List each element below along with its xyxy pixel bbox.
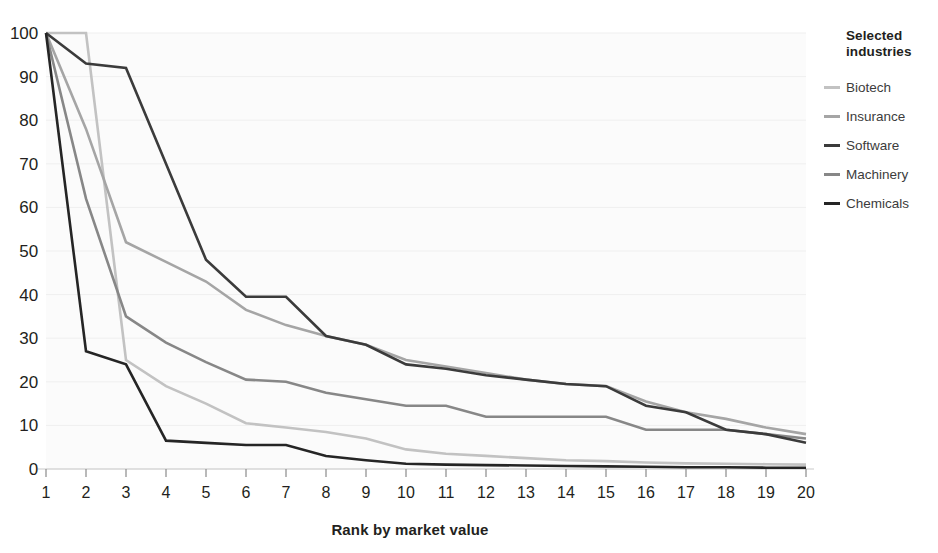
legend-item[interactable]: Chemicals — [824, 189, 938, 218]
x-axis-tick-label: 5 — [190, 485, 222, 501]
x-axis-tick-labels: 1234567891011121314151617181920 — [0, 0, 820, 553]
chart-container: 1009080706050403020100 12345678910111213… — [0, 0, 938, 553]
x-axis-tick-label: 8 — [310, 485, 342, 501]
x-axis-tick-label: 18 — [710, 485, 742, 501]
legend-item[interactable]: Insurance — [824, 102, 938, 131]
plot-area: 1009080706050403020100 12345678910111213… — [0, 0, 820, 553]
legend-item-label: Machinery — [846, 168, 908, 182]
legend-item[interactable]: Biotech — [824, 73, 938, 102]
legend-title-line1: Selected — [846, 28, 938, 44]
x-axis-tick-label: 3 — [110, 485, 142, 501]
legend-title-line2: industries — [846, 44, 938, 60]
legend-item[interactable]: Machinery — [824, 160, 938, 189]
x-axis-tick-label: 17 — [670, 485, 702, 501]
x-axis-tick-label: 1 — [30, 485, 62, 501]
x-axis-tick-label: 6 — [230, 485, 262, 501]
legend-item[interactable]: Software — [824, 131, 938, 160]
legend-item-label: Biotech — [846, 81, 891, 95]
x-axis-tick-label: 2 — [70, 485, 102, 501]
legend-color-swatch-icon — [824, 144, 840, 147]
legend-item-label: Insurance — [846, 110, 905, 124]
legend-color-swatch-icon — [824, 86, 840, 89]
x-axis-tick-label: 10 — [390, 485, 422, 501]
legend-color-swatch-icon — [824, 173, 840, 176]
x-axis-tick-label: 19 — [750, 485, 782, 501]
x-axis-tick-label: 20 — [790, 485, 822, 501]
legend-item-label: Software — [846, 139, 899, 153]
x-axis-tick-label: 9 — [350, 485, 382, 501]
legend-item-label: Chemicals — [846, 197, 909, 211]
x-axis-tick-label: 15 — [590, 485, 622, 501]
legend-color-swatch-icon — [824, 115, 840, 118]
x-axis-tick-label: 4 — [150, 485, 182, 501]
x-axis-tick-label: 12 — [470, 485, 502, 501]
legend-color-swatch-icon — [824, 202, 840, 205]
legend-item-list: BiotechInsuranceSoftwareMachineryChemica… — [824, 73, 938, 218]
x-axis-tick-label: 11 — [430, 485, 462, 501]
x-axis-tick-label: 7 — [270, 485, 302, 501]
x-axis-tick-label: 16 — [630, 485, 662, 501]
x-axis-title: Rank by market value — [0, 521, 820, 538]
x-axis-tick-label: 13 — [510, 485, 542, 501]
x-axis-tick-label: 14 — [550, 485, 582, 501]
legend: Selected industries BiotechInsuranceSoft… — [824, 28, 938, 218]
legend-title: Selected industries — [846, 28, 938, 60]
